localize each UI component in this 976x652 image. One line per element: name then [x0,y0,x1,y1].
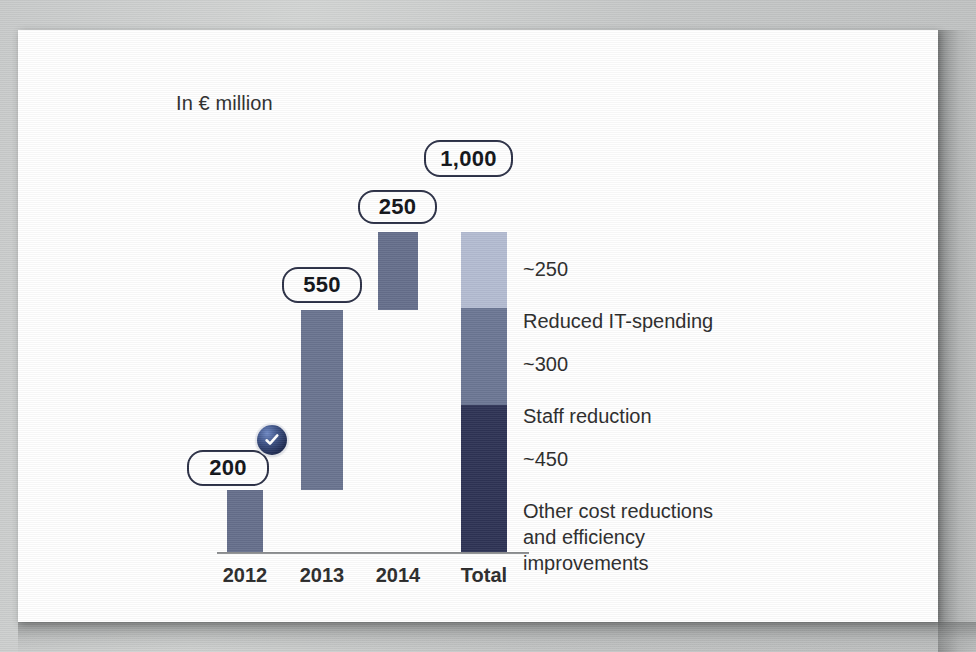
bar-2014 [378,232,418,310]
value-callout-2012: 200 [187,450,269,486]
legend-amount-other-cost-reductions: ~450 [523,446,713,472]
x-axis-label-2012: 2012 [205,564,285,587]
bar-2013 [301,310,343,490]
value-callout-2014: 250 [358,190,437,224]
x-axis-label-2013: 2013 [282,564,362,587]
slide-page: In € million 2012 2013 2014 Total 200 55 [18,30,938,622]
value-callout-total: 1,000 [424,140,513,177]
legend-amount-reduced-it-spending: ~250 [523,256,713,282]
x-axis-label-2014: 2014 [358,564,438,587]
legend-description-other-cost-reductions: Other cost reductions and efficiency imp… [523,498,713,576]
page-shadow-bottom [18,622,976,652]
bar-total-segment-other-cost-reductions [461,405,507,552]
bar-total-segment-staff-reduction [461,308,507,405]
legend-item-other-cost-reductions: ~450 Other cost reductions and efficienc… [523,420,713,602]
waterfall-chart: 2012 2013 2014 Total 200 550 250 1,000 ~… [18,30,938,622]
x-axis-label-total: Total [444,564,524,587]
check-circle-icon[interactable] [257,425,287,455]
bar-2012 [227,490,263,552]
x-axis-line [217,552,529,554]
photographed-slide: In € million 2012 2013 2014 Total 200 55 [0,0,976,652]
page-shadow-right [938,30,976,652]
bar-total-segment-reduced-it-spending [461,232,507,308]
value-callout-2013: 550 [282,267,362,303]
legend-amount-staff-reduction: ~300 [523,351,652,377]
